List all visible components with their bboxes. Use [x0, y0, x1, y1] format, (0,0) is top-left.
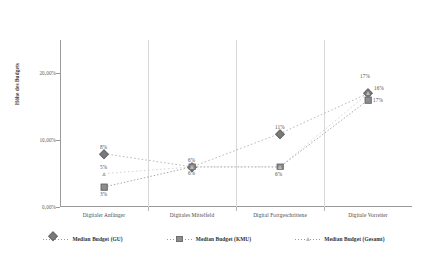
- x-axis-label-2: Digital Fortgeschrittene: [253, 212, 307, 218]
- point-gesamt-3[interactable]: [366, 91, 370, 95]
- data-label-gu-2: 11%: [275, 124, 285, 130]
- y-tick-label-1: 10,00%: [39, 137, 56, 143]
- data-label-kmu-2: 6%: [275, 171, 282, 177]
- chart-legend: Median Budget (GU) Median Budget (KMU) M…: [0, 236, 428, 242]
- legend-line-kmu: [167, 237, 193, 242]
- legend-line-gesamt: [295, 237, 321, 242]
- plot-area: 0,00% 10,00% 20,00%: [60, 40, 412, 207]
- legend-diamond-icon: [48, 231, 57, 240]
- data-label-gu-0: 8%: [100, 144, 107, 150]
- y-tick-label-2: 20,00%: [39, 70, 56, 76]
- data-label-gesamt-0: 5%: [100, 164, 107, 170]
- point-kmu-3[interactable]: [365, 97, 372, 104]
- x-axis-label-1: Digitales Mittelfeld: [170, 212, 214, 218]
- data-label-kmu-0: 3%: [100, 191, 107, 197]
- y-tick-0: [56, 207, 60, 208]
- x-axis-label-0: Digitaler Anfänger: [83, 212, 125, 218]
- chart-container: Höhe des Budgets 0,00% 10,00% 20,00%: [0, 0, 428, 266]
- x-tick-3: [324, 207, 325, 211]
- data-label-kmu-3: 16%: [374, 85, 384, 91]
- x-tick-1: [148, 207, 149, 211]
- legend-square-icon: [176, 236, 183, 243]
- data-label-kmu-1: 6%: [188, 170, 195, 176]
- legend-item-gu[interactable]: Median Budget (GU): [43, 236, 122, 242]
- series-lines: [60, 40, 412, 207]
- x-tick-2: [236, 207, 237, 211]
- legend-label-gesamt: Median Budget (Gesamt): [324, 236, 384, 242]
- legend-item-kmu[interactable]: Median Budget (KMU): [167, 236, 252, 242]
- point-gesamt-0[interactable]: [102, 172, 106, 176]
- data-label-gu-3: 17%: [373, 97, 383, 103]
- legend-item-gesamt[interactable]: Median Budget (Gesamt): [295, 236, 384, 242]
- legend-label-kmu: Median Budget (KMU): [196, 236, 252, 242]
- data-label-gesamt-3: 17%: [360, 73, 370, 79]
- y-tick-label-0: 0,00%: [42, 204, 56, 210]
- data-label-gu-1: 6%: [188, 157, 195, 163]
- legend-label-gu: Median Budget (GU): [72, 236, 122, 242]
- point-kmu-0[interactable]: [101, 184, 108, 191]
- line-gesamt: [104, 93, 368, 173]
- legend-triangle-icon: [306, 237, 310, 241]
- legend-line-gu: [43, 237, 69, 242]
- y-axis-title: Höhe des Budgets: [14, 63, 20, 105]
- x-axis-label-3: Digitale Vorreiter: [348, 212, 387, 218]
- point-gesamt-2[interactable]: [278, 165, 282, 169]
- point-gesamt-1[interactable]: [190, 165, 194, 169]
- line-kmu: [104, 100, 368, 187]
